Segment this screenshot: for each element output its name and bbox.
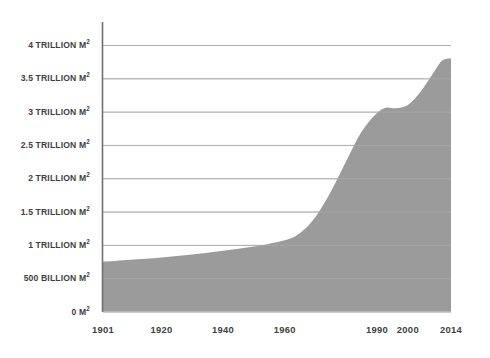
x-axis-tick-label: 1960 bbox=[274, 324, 296, 335]
x-axis-label-group: 1901192019401960199020002014 bbox=[0, 0, 490, 358]
x-axis-tick-label: 1990 bbox=[366, 324, 388, 335]
x-axis-tick-label: 2000 bbox=[397, 324, 419, 335]
x-axis-tick-label: 2014 bbox=[440, 324, 462, 335]
area-chart: 4 TRILLION M23.5 TRILLION M23 TRILLION M… bbox=[0, 0, 490, 358]
x-axis-tick-label: 1901 bbox=[92, 324, 114, 335]
x-axis-tick-label: 1920 bbox=[150, 324, 172, 335]
x-axis-tick-label: 1940 bbox=[212, 324, 234, 335]
